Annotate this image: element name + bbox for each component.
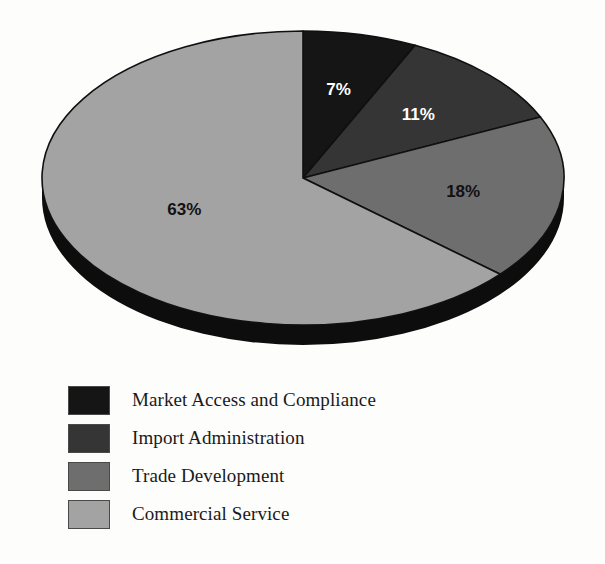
legend-label-trade-development: Trade Development	[132, 465, 284, 487]
legend-swatch-trade-development	[68, 462, 110, 491]
pie-chart-figure: 7%11%18%63% Market Access and Compliance…	[0, 0, 605, 564]
pie-chart-svg: 7%11%18%63%	[0, 0, 605, 350]
pie-chart-plot: 7%11%18%63%	[0, 0, 605, 350]
legend-item-commercial-service[interactable]: Commercial Service	[68, 495, 488, 533]
legend-item-market-access-and-compliance[interactable]: Market Access and Compliance	[68, 381, 488, 419]
pie-slice-label-63: 63%	[167, 200, 201, 219]
chart-legend: Market Access and Compliance Import Admi…	[68, 381, 488, 533]
pie-slice-label-18: 18%	[446, 182, 480, 201]
legend-item-trade-development[interactable]: Trade Development	[68, 457, 488, 495]
legend-label-import-administration: Import Administration	[132, 427, 305, 449]
legend-swatch-market-access-and-compliance	[68, 386, 110, 415]
pie-slice-label-7: 7%	[326, 80, 351, 99]
legend-item-import-administration[interactable]: Import Administration	[68, 419, 488, 457]
legend-label-commercial-service: Commercial Service	[132, 503, 289, 525]
legend-label-market-access-and-compliance: Market Access and Compliance	[132, 389, 376, 411]
legend-swatch-import-administration	[68, 424, 110, 453]
pie-top-face	[42, 31, 564, 325]
legend-swatch-commercial-service	[68, 500, 110, 529]
pie-slice-label-11: 11%	[402, 105, 435, 124]
